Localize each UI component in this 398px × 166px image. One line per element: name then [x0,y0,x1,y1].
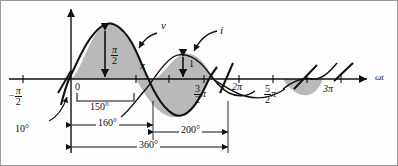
three-half-suffix: π [201,88,206,99]
tick-label-five-half-pi: 5 2 π [264,84,276,105]
amplitude-label-v: π 2 [111,45,118,66]
five-half-denominator: 2 [264,95,271,105]
annotation-160-degrees: 160° [96,118,119,128]
tick-label-two-pi: 2π [232,82,242,92]
five-half-suffix: π [271,88,276,99]
amplitude-v-denominator: 2 [111,56,118,66]
curve-label-i: i [220,25,223,36]
bracket-150 [77,93,134,101]
neg-half-pi-denominator: 2 [15,97,22,107]
tick-label-pi: π [140,61,145,71]
annotation-200-degrees: 200° [179,125,202,135]
tick-label-three-pi: 3π [323,84,333,94]
curve-label-v: v [161,20,166,31]
tick-label-neg-half-pi: − π 2 [9,86,22,107]
tick-label-three-half-pi: 3 2 π [194,84,206,105]
leader-line-10deg [49,97,67,121]
annotation-150-degrees: 150° [90,102,109,112]
annotation-360-degrees: 360° [137,140,160,150]
annotation-10-degrees: 10° [15,124,29,134]
x-axis-label: ωt [375,73,384,82]
tick-label-zero: 0 [75,82,80,92]
amplitude-label-i: 1 [189,59,194,69]
three-half-denominator: 2 [194,95,201,105]
leader-line-i [194,31,217,51]
leader-line-v [139,33,157,48]
sinusoid-figure: v i π 2 1 − π 2 0 π 3 2 π 2π 5 2 π 3π ωt [0,0,398,166]
